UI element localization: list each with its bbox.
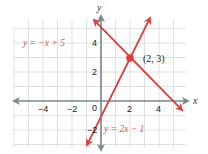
point-label: (2, 3)	[143, 53, 165, 65]
equation-label-1: y = −x + 5	[22, 38, 65, 48]
origin-label: 0	[92, 103, 97, 113]
y-tick-4: 4	[92, 38, 97, 48]
coordinate-plane: −4 −2 2 4 4 2 −2 0 y x (2, 3) y = −x + 5…	[0, 0, 208, 154]
x-axis-label: x	[192, 95, 198, 106]
intersection-point	[126, 54, 134, 62]
x-tick-4: 4	[156, 104, 161, 114]
line-y-eq-neg-x-plus-5-tail	[94, 20, 182, 110]
y-axis-label: y	[96, 2, 102, 13]
y-tick--2: −2	[87, 125, 97, 135]
x-tick-2: 2	[127, 104, 132, 114]
y-tick-2: 2	[92, 67, 97, 77]
x-tick--4: −4	[38, 104, 48, 114]
x-tick--2: −2	[67, 104, 77, 114]
equation-label-2: y = 2x − 1	[103, 124, 144, 134]
